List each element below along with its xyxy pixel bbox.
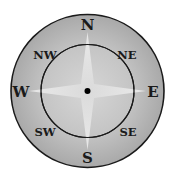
label-southeast: SE xyxy=(119,125,136,139)
label-southwest: SW xyxy=(34,125,56,139)
label-west: W xyxy=(12,83,31,101)
label-south: S xyxy=(82,149,93,167)
compass-rose: N E S W NW NE SW SE xyxy=(0,0,172,178)
label-north: N xyxy=(81,16,95,34)
label-northeast: NE xyxy=(117,48,137,62)
label-east: E xyxy=(147,83,158,101)
label-northwest: NW xyxy=(33,48,58,62)
center-dot xyxy=(85,88,91,94)
